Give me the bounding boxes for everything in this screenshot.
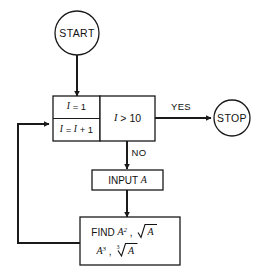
no-branch-label: NO	[132, 147, 147, 158]
node-stop[interactable]: STOP	[214, 100, 250, 136]
cbrt-radicand: A	[127, 245, 135, 256]
input-label: INPUT A	[108, 174, 148, 185]
start-label: START	[59, 27, 95, 39]
node-start[interactable]: START	[55, 11, 99, 55]
find-box	[80, 217, 180, 265]
stop-label: STOP	[217, 112, 247, 124]
yes-branch-label: YES	[171, 101, 191, 112]
node-input[interactable]: INPUT A	[92, 170, 163, 190]
edge-feedback-loop	[18, 124, 80, 243]
sqrt-radicand: A	[146, 226, 154, 237]
flowchart-canvas: START STOP I = 1 I = I + 1 I > 10 Y	[0, 0, 262, 277]
find-keyword: FIND A2 ,	[91, 225, 132, 238]
node-find[interactable]: FIND A2 , A A3 , 3 A	[80, 217, 180, 265]
decision-label: I > 10	[113, 112, 141, 124]
init-label: I = 1	[66, 101, 86, 112]
node-decision[interactable]: I > 10	[100, 96, 155, 141]
cbrt-index: 3	[117, 244, 120, 250]
flowchart-svg: START STOP I = 1 I = I + 1 I > 10 Y	[0, 0, 262, 277]
node-loop-control[interactable]: I = 1 I = I + 1	[53, 96, 100, 141]
increment-label: I = I + 1	[59, 124, 93, 135]
